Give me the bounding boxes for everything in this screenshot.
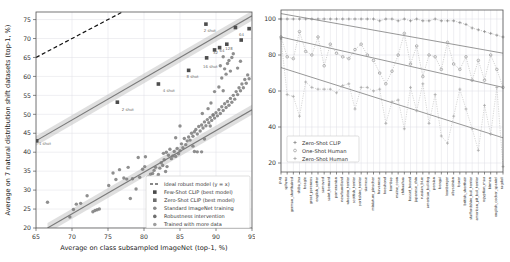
category-label: japanese_chin bbox=[414, 177, 418, 203]
data-point bbox=[428, 122, 431, 125]
data-point bbox=[335, 18, 338, 21]
data-point bbox=[347, 82, 350, 85]
scatter-point bbox=[151, 172, 154, 175]
data-point bbox=[495, 34, 498, 37]
scatter-point bbox=[111, 171, 114, 174]
data-point bbox=[292, 18, 295, 21]
scatter-point bbox=[240, 82, 243, 85]
data-point bbox=[329, 88, 332, 91]
ytick-label: 20 bbox=[23, 224, 31, 231]
scatter-point bbox=[196, 150, 199, 153]
scatter-point bbox=[239, 60, 242, 63]
data-point bbox=[391, 18, 394, 21]
data-point bbox=[310, 86, 313, 89]
shot-annotation: 16 shot bbox=[203, 64, 218, 69]
scatter-point bbox=[207, 121, 210, 124]
scatter-point bbox=[247, 77, 250, 80]
scatter-point bbox=[125, 177, 128, 180]
scatter-point bbox=[158, 166, 161, 169]
scatter-point bbox=[143, 165, 146, 168]
data-point bbox=[397, 99, 400, 102]
data-point bbox=[452, 19, 455, 22]
scatter-point bbox=[204, 124, 207, 127]
scatter-point bbox=[243, 78, 246, 81]
scatter-point bbox=[209, 124, 212, 127]
right-chart-panel: 20406080100pugsphynxgerman_shorthairedsh… bbox=[255, 0, 510, 262]
category-label: miniature_pinscher bbox=[371, 176, 375, 210]
scatter-point bbox=[230, 100, 233, 103]
category-label: chihuahua bbox=[401, 177, 405, 195]
scatter-point bbox=[180, 142, 183, 145]
scatter-point bbox=[162, 152, 165, 155]
scatter-point bbox=[178, 149, 181, 152]
data-point bbox=[341, 18, 344, 21]
data-point bbox=[434, 93, 437, 96]
scatter-point bbox=[201, 112, 204, 115]
data-point bbox=[310, 18, 313, 21]
data-point bbox=[446, 19, 449, 22]
shot-annotation: 4 shot bbox=[163, 88, 176, 93]
data-point bbox=[329, 18, 332, 21]
data-point bbox=[403, 18, 406, 21]
left-chart-panel: 1 shot2 shot4 shot8 shot16 shot326412864… bbox=[0, 0, 255, 262]
scatter-point bbox=[210, 119, 213, 122]
scatter-point bbox=[186, 139, 189, 142]
scatter-point bbox=[220, 105, 223, 108]
ytick-label: 60 bbox=[23, 73, 31, 80]
category-label: sphynx bbox=[284, 177, 288, 190]
data-point bbox=[347, 18, 350, 21]
category-label: maine_coon bbox=[395, 177, 399, 198]
scatter-point bbox=[219, 64, 222, 67]
scatter-point bbox=[107, 184, 110, 187]
scatter-point bbox=[162, 158, 165, 161]
category-label: beagle bbox=[303, 177, 307, 189]
data-point bbox=[323, 18, 326, 21]
scatter-point bbox=[190, 132, 193, 135]
scatter-point bbox=[237, 86, 240, 89]
category-label: american_pit_bull_terrier bbox=[475, 176, 479, 220]
shot-annotation: 64 bbox=[220, 48, 225, 53]
data-point bbox=[397, 19, 400, 22]
category-label: american_bulldog bbox=[426, 177, 430, 208]
legend-marker bbox=[153, 223, 157, 227]
scatter-point bbox=[138, 176, 141, 179]
scatter-point bbox=[181, 146, 184, 149]
legend-label: One-Shot Human bbox=[302, 148, 347, 154]
data-point bbox=[384, 122, 387, 125]
data-point bbox=[366, 86, 369, 89]
fewshot-point bbox=[116, 100, 120, 104]
scatter-point bbox=[201, 126, 204, 129]
category-label: abyssinian bbox=[451, 177, 455, 196]
scatter-point bbox=[161, 164, 164, 167]
category-label: british_shorthair bbox=[463, 176, 467, 205]
data-point bbox=[465, 23, 468, 26]
ytick-label: 40 bbox=[23, 148, 31, 155]
scatter-point bbox=[198, 129, 201, 132]
data-point bbox=[360, 86, 363, 89]
scatter-point bbox=[114, 178, 117, 181]
ytick-label: 75 bbox=[23, 16, 31, 23]
data-point bbox=[378, 88, 381, 91]
fewshot-point bbox=[239, 38, 243, 42]
robustness-scatter-chart: 1 shot2 shot4 shot8 shot16 shot326412864… bbox=[0, 0, 255, 262]
scatter-point bbox=[230, 56, 233, 59]
scatter-point bbox=[134, 187, 137, 190]
scatter-point bbox=[223, 67, 226, 70]
scatter-point bbox=[211, 113, 214, 116]
legend-label: Robustness intervention bbox=[164, 213, 225, 219]
scatter-point bbox=[213, 90, 216, 93]
data-point bbox=[409, 19, 412, 22]
scatter-point bbox=[183, 137, 186, 140]
data-point bbox=[292, 95, 295, 98]
scatter-point bbox=[236, 93, 239, 96]
scatter-point bbox=[203, 137, 206, 140]
scatter-point bbox=[118, 168, 121, 171]
ytick-label: 35 bbox=[23, 167, 31, 174]
ytick-label: 55 bbox=[23, 92, 31, 99]
data-point bbox=[434, 18, 437, 21]
x-axis-label: Average on class subsampled ImageNet (to… bbox=[60, 244, 227, 252]
scatter-point bbox=[85, 194, 88, 197]
legend-marker bbox=[153, 190, 157, 194]
category-label: pomeranian bbox=[334, 177, 338, 198]
ytick-label: 50 bbox=[23, 111, 31, 118]
